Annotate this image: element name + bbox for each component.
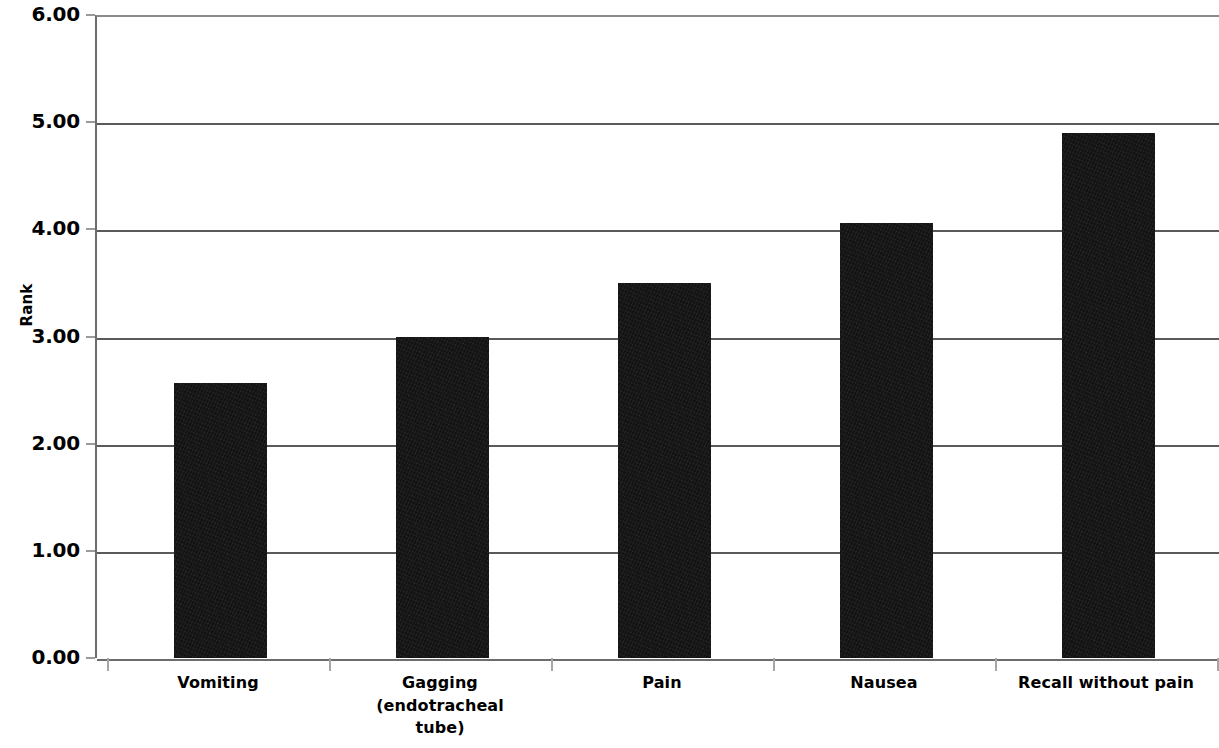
bar [396, 337, 489, 659]
x-axis-line [97, 659, 1219, 661]
bar [618, 283, 711, 658]
x-axis-tick-mark [107, 658, 109, 671]
x-axis-tick-label: Gagging (endotracheal tube) [329, 672, 551, 740]
gridline [97, 230, 1219, 232]
bar [840, 223, 933, 658]
bar [1062, 133, 1155, 658]
y-axis-tick-label: 2.00 [0, 433, 80, 453]
x-axis-tick-label: Nausea [773, 672, 995, 695]
bar [174, 383, 267, 658]
y-axis-tick-mark [86, 657, 95, 659]
x-axis-tick-mark [773, 658, 775, 671]
x-axis-tick-mark [551, 658, 553, 671]
y-axis-tick-mark [86, 121, 95, 123]
y-axis-tick-label: 0.00 [0, 647, 80, 667]
y-axis-tick-mark [86, 336, 95, 338]
x-axis-tick-label: Vomiting [107, 672, 329, 695]
y-axis-tick-label: 5.00 [0, 111, 80, 131]
gridline [97, 123, 1219, 125]
bar-chart: Rank 6.005.004.003.002.001.000.00 Vomiti… [0, 0, 1219, 748]
y-axis-tick-label: 3.00 [0, 326, 80, 346]
x-axis-tick-label: Recall without pain [995, 672, 1217, 695]
x-axis-tick-mark [329, 658, 331, 671]
y-axis-tick-mark [86, 550, 95, 552]
y-axis-tick-mark [86, 228, 95, 230]
y-axis-tick-label: 1.00 [0, 540, 80, 560]
y-axis-tick-mark [86, 14, 95, 16]
y-axis-tick-mark [86, 443, 95, 445]
y-axis-tick-label: 6.00 [0, 4, 80, 24]
y-axis-tick-label: 4.00 [0, 218, 80, 238]
x-axis-tick-mark [995, 658, 997, 671]
plot-area [95, 15, 1219, 658]
x-axis-tick-label: Pain [551, 672, 773, 695]
